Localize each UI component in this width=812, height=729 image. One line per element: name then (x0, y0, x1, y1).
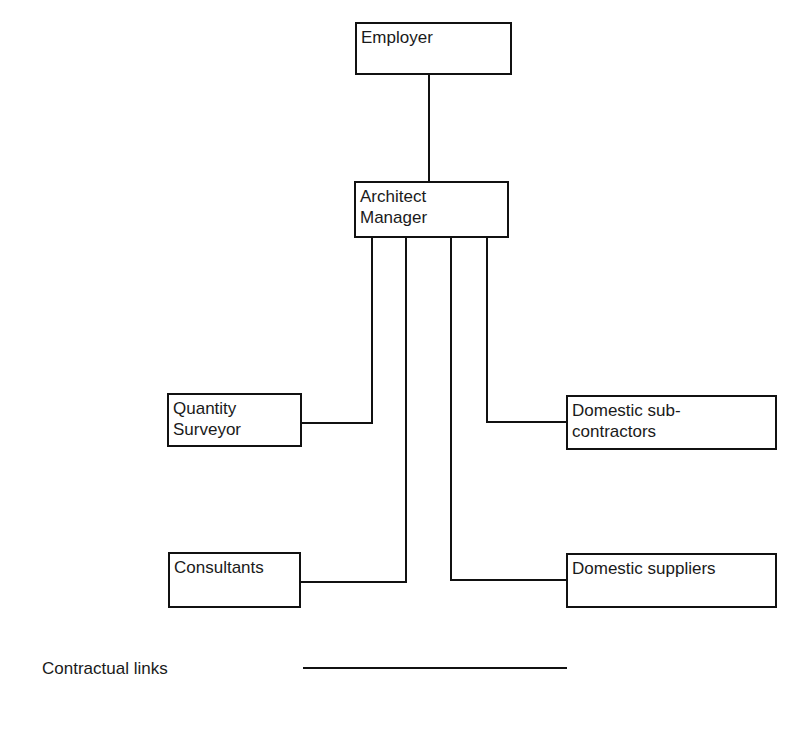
node-suppliers-label: Domestic suppliers (572, 559, 716, 578)
node-employer-label: Employer (361, 28, 433, 47)
node-consultants-label: Consultants (174, 558, 264, 577)
node-domestic-subcontractors: Domestic sub- contractors (566, 395, 777, 450)
node-domestic-suppliers: Domestic suppliers (566, 553, 777, 608)
node-quantity-surveyor: Quantity Surveyor (167, 393, 302, 447)
connector-architect-qs-vertical (371, 237, 373, 424)
node-architect-manager: Architect Manager (354, 181, 509, 238)
node-employer: Employer (355, 22, 512, 75)
node-subcontractors-label-line2: contractors (572, 421, 772, 442)
node-qs-label-line1: Quantity (173, 398, 297, 419)
connector-architect-consultants-horizontal (299, 581, 407, 583)
legend-contractual-links-line (303, 667, 567, 669)
connector-architect-suppliers-horizontal (450, 579, 567, 581)
node-subcontractors-label-line1: Domestic sub- (572, 400, 772, 421)
connector-architect-consultants-vertical (405, 237, 407, 583)
connector-architect-subcontractors-horizontal (486, 421, 567, 423)
node-consultants: Consultants (168, 552, 301, 608)
node-qs-label-line2: Surveyor (173, 419, 297, 440)
node-architect-label-line2: Manager (360, 207, 504, 228)
node-architect-label-line1: Architect (360, 186, 504, 207)
connector-employer-architect (428, 74, 430, 182)
connector-architect-qs-horizontal (300, 422, 373, 424)
connector-architect-subcontractors-vertical (486, 237, 488, 423)
legend-contractual-links-label: Contractual links (42, 659, 168, 679)
connector-architect-suppliers-vertical (450, 237, 452, 581)
